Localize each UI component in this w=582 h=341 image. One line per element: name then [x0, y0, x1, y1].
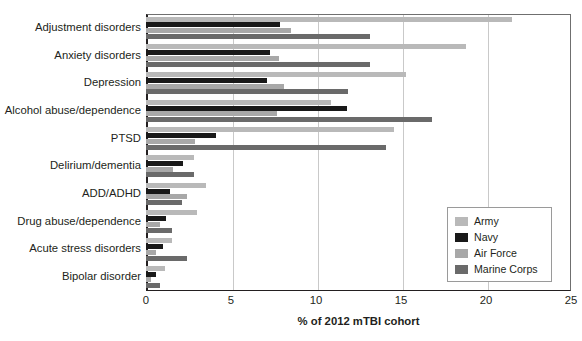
legend-item: Army	[455, 213, 545, 229]
bar-group	[146, 69, 571, 97]
bar-air-force	[146, 139, 195, 144]
bar-chart: Adjustment disordersAnxiety disordersDep…	[0, 0, 582, 341]
y-axis-label: Alcohol abuse/dependence	[5, 105, 141, 116]
bar-marine-corps	[146, 34, 370, 39]
bar-group	[146, 152, 571, 180]
legend-item: Navy	[455, 229, 545, 245]
y-axis-label: Acute stress disorders	[29, 243, 141, 254]
legend-swatch-icon	[455, 233, 468, 242]
bar-air-force	[146, 222, 160, 227]
y-axis-label: Drug abuse/dependence	[17, 216, 141, 227]
x-axis-tick-label: 15	[395, 294, 408, 306]
bar-army	[146, 210, 197, 215]
y-axis-labels: Adjustment disordersAnxiety disordersDep…	[0, 14, 141, 291]
bar-navy	[146, 78, 267, 83]
bar-army	[146, 44, 466, 49]
bar-army	[146, 183, 206, 188]
bar-army	[146, 17, 512, 22]
y-axis-label: Bipolar disorder	[62, 271, 141, 282]
bar-air-force	[146, 277, 151, 282]
bar-air-force	[146, 194, 187, 199]
y-axis-label: PTSD	[111, 133, 141, 144]
bar-marine-corps	[146, 89, 348, 94]
bar-marine-corps	[146, 145, 386, 150]
bar-group	[146, 97, 571, 125]
legend-item: Air Force	[455, 245, 545, 261]
bar-air-force	[146, 28, 291, 33]
y-axis-label: Anxiety disorders	[54, 50, 141, 61]
y-axis-label: Delirium/dementia	[50, 160, 141, 171]
chart-legend: ArmyNavyAir ForceMarine Corps	[447, 207, 552, 282]
bar-marine-corps	[146, 172, 194, 177]
bar-army	[146, 127, 394, 132]
legend-swatch-icon	[455, 217, 468, 226]
bar-marine-corps	[146, 200, 182, 205]
bar-navy	[146, 22, 280, 27]
bar-navy	[146, 272, 156, 277]
legend-label: Army	[474, 216, 499, 227]
bar-navy	[146, 133, 216, 138]
bar-marine-corps	[146, 256, 187, 261]
bar-navy	[146, 161, 183, 166]
y-axis-label: ADD/ADHD	[82, 188, 141, 199]
bar-air-force	[146, 56, 279, 61]
bar-navy	[146, 50, 270, 55]
bar-group	[146, 125, 571, 153]
bar-air-force	[146, 167, 173, 172]
x-axis-tick-label: 0	[143, 294, 149, 306]
legend-label: Marine Corps	[474, 264, 538, 275]
legend-label: Navy	[474, 232, 498, 243]
y-axis-label: Depression	[84, 77, 141, 88]
bar-group	[146, 14, 571, 42]
bar-navy	[146, 189, 170, 194]
bar-army	[146, 72, 406, 77]
bar-marine-corps	[146, 117, 432, 122]
bar-group	[146, 42, 571, 70]
bar-army	[146, 266, 165, 271]
legend-label: Air Force	[474, 248, 517, 259]
x-axis-tick-label: 20	[480, 294, 493, 306]
bar-air-force	[146, 250, 156, 255]
legend-swatch-icon	[455, 249, 468, 258]
bar-army	[146, 100, 331, 105]
bar-navy	[146, 106, 347, 111]
bar-navy	[146, 244, 163, 249]
bar-marine-corps	[146, 62, 370, 67]
x-axis-tick-label: 10	[310, 294, 323, 306]
x-axis-tick-label: 25	[565, 294, 578, 306]
bar-army	[146, 155, 194, 160]
bar-navy	[146, 216, 166, 221]
y-axis-label: Adjustment disorders	[35, 22, 141, 33]
legend-item: Marine Corps	[455, 261, 545, 277]
x-axis-title: % of 2012 mTBI cohort	[146, 315, 571, 327]
bar-air-force	[146, 111, 277, 116]
x-axis-tick-label: 5	[228, 294, 234, 306]
legend-swatch-icon	[455, 265, 468, 274]
bar-marine-corps	[146, 283, 160, 288]
bar-army	[146, 238, 172, 243]
bar-group	[146, 180, 571, 208]
bar-marine-corps	[146, 228, 172, 233]
bar-air-force	[146, 84, 284, 89]
x-axis-ticks: 0510152025	[146, 291, 571, 309]
